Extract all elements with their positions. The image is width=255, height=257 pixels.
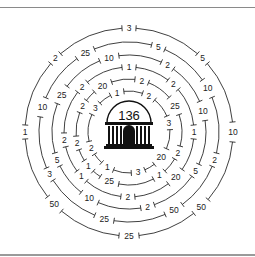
ring-segment-value[interactable]: 50 bbox=[197, 202, 207, 212]
segment-tick-mark bbox=[181, 202, 185, 207]
ring-arc-segment bbox=[165, 159, 175, 171]
ring-arc-segment bbox=[155, 100, 167, 116]
ring-segment-value[interactable]: 10 bbox=[198, 106, 208, 116]
temple-building-icon: 136 bbox=[104, 101, 154, 149]
segment-tick-mark bbox=[139, 233, 140, 239]
ring-segment-value[interactable]: 1 bbox=[79, 171, 84, 181]
ring-segment-value[interactable]: 25 bbox=[124, 231, 134, 241]
ring-arc-segment bbox=[61, 211, 119, 235]
ring-arc-segment bbox=[114, 214, 165, 222]
ring-arc-segment bbox=[76, 113, 80, 136]
ring-segment-value[interactable]: 2 bbox=[80, 101, 85, 111]
ring-segment-value[interactable]: 2 bbox=[212, 155, 217, 165]
ring-arc-segment bbox=[179, 115, 182, 147]
ring-arc-segment bbox=[124, 91, 143, 93]
ring-segment-value[interactable]: 2 bbox=[139, 76, 144, 86]
ring-arc-segment bbox=[182, 139, 194, 169]
segment-tick-mark bbox=[118, 181, 119, 187]
segment-tick-mark bbox=[123, 88, 124, 94]
ring-segment-value[interactable]: 2 bbox=[126, 192, 131, 202]
ring-segment-value[interactable]: 20 bbox=[171, 172, 181, 182]
ring-segment-value[interactable]: 1 bbox=[86, 161, 91, 171]
ring-arc-segment bbox=[166, 130, 170, 149]
ring-segment-value[interactable]: 3 bbox=[127, 23, 132, 33]
ring-arc-segment bbox=[93, 171, 100, 176]
ring-segment-value[interactable]: 1 bbox=[23, 127, 28, 137]
ring-segment-value[interactable]: 2 bbox=[175, 148, 180, 158]
ring-arc-segment bbox=[39, 117, 46, 168]
ring-segment-value[interactable]: 2 bbox=[89, 143, 94, 153]
ring-segment-value[interactable]: 25 bbox=[81, 48, 91, 58]
ring-segment-value[interactable]: 5 bbox=[156, 42, 161, 52]
ring-segment-value[interactable]: 2 bbox=[171, 79, 176, 89]
segment-tick-mark bbox=[166, 181, 170, 186]
segment-tick-mark bbox=[75, 56, 78, 61]
ring-puzzle-diagram: 3510502550125102502531025210521052510121… bbox=[0, 0, 255, 257]
ring-segment-value[interactable]: 50 bbox=[49, 199, 59, 209]
ring-segment-value[interactable]: 25 bbox=[104, 176, 114, 186]
segment-tick-mark bbox=[200, 78, 205, 81]
ring-segment-value[interactable]: 10 bbox=[228, 127, 238, 137]
segment-tick-mark bbox=[230, 122, 236, 123]
ring-segment-value[interactable]: 10 bbox=[203, 83, 213, 93]
ring-arc-segment bbox=[148, 83, 169, 98]
ring-arc-segment bbox=[98, 203, 141, 209]
ring-segment-value[interactable]: 10 bbox=[104, 53, 114, 63]
ring-segment-value[interactable]: 1 bbox=[157, 170, 162, 180]
segment-tick-mark bbox=[92, 153, 97, 156]
ring-segment-value[interactable]: 10 bbox=[85, 193, 95, 203]
ring-segment-value[interactable]: 1 bbox=[127, 62, 132, 72]
ring-segment-value[interactable]: 20 bbox=[157, 152, 167, 162]
ring-segment-value[interactable]: 2 bbox=[62, 135, 67, 145]
segment-tick-mark bbox=[65, 84, 70, 88]
ring-segment-value[interactable]: 2 bbox=[145, 202, 150, 212]
ring-segment-value[interactable]: 2 bbox=[147, 91, 152, 101]
ring-arc-segment bbox=[173, 69, 199, 101]
ring-segment-value[interactable]: 3 bbox=[47, 169, 52, 179]
ring-arc-segment bbox=[87, 67, 122, 82]
ring-segment-value[interactable]: 3 bbox=[93, 103, 98, 113]
ring-segment-value[interactable]: 5 bbox=[55, 155, 60, 165]
ring-segment-value[interactable]: 2 bbox=[80, 82, 85, 92]
ring-arc-segment bbox=[94, 42, 151, 49]
ring-arc-segment bbox=[25, 139, 47, 197]
ring-arc-segment bbox=[199, 121, 206, 165]
segment-tick-mark bbox=[172, 157, 177, 160]
segment-tick-mark bbox=[45, 195, 50, 199]
segment-tick-mark bbox=[37, 116, 43, 117]
segment-tick-mark bbox=[191, 125, 197, 126]
ring-segment-value[interactable]: 3 bbox=[167, 118, 172, 128]
ring-arc-segment bbox=[208, 142, 232, 200]
ring-segment-value[interactable]: 5 bbox=[200, 53, 205, 63]
segment-tick-mark bbox=[118, 53, 119, 59]
ring-segment-value[interactable]: 20 bbox=[98, 81, 108, 91]
ring-segment-value[interactable]: 2 bbox=[53, 53, 58, 63]
center-target-number: 136 bbox=[118, 108, 140, 123]
ring-segment-value[interactable]: 25 bbox=[99, 214, 109, 224]
ring-segment-value[interactable]: 1 bbox=[105, 162, 110, 172]
segment-tick-mark bbox=[166, 78, 170, 83]
ring-arc-segment bbox=[112, 79, 135, 82]
ring-segment-value[interactable]: 25 bbox=[57, 90, 67, 100]
ring-segment-value[interactable]: 50 bbox=[169, 205, 179, 215]
ring-arc-segment bbox=[66, 147, 77, 171]
ring-segment-value[interactable]: 2 bbox=[75, 138, 80, 148]
ring-arc-segment bbox=[52, 104, 57, 153]
segment-tick-mark bbox=[152, 162, 156, 167]
segment-tick-mark bbox=[99, 174, 102, 179]
ring-segment-value[interactable]: 2 bbox=[165, 60, 170, 70]
ring-segment-value[interactable]: 5 bbox=[193, 166, 198, 176]
ring-segment-value[interactable]: 25 bbox=[170, 101, 180, 111]
ring-arc-segment bbox=[135, 184, 168, 197]
ring-arc-segment bbox=[119, 55, 161, 62]
ring-segment-value[interactable]: 3 bbox=[136, 167, 141, 177]
ring-segment-value[interactable]: 1 bbox=[192, 127, 197, 137]
ring-segment-value[interactable]: 10 bbox=[38, 102, 48, 112]
segment-tick-mark bbox=[230, 142, 236, 143]
segment-tick-mark bbox=[119, 233, 120, 239]
ring-arc-segment bbox=[95, 154, 102, 162]
ring-segment-value[interactable]: 1 bbox=[115, 88, 120, 98]
segment-tick-mark bbox=[191, 139, 197, 140]
ring-arc-segment bbox=[100, 95, 111, 103]
segment-tick-mark bbox=[122, 64, 123, 70]
